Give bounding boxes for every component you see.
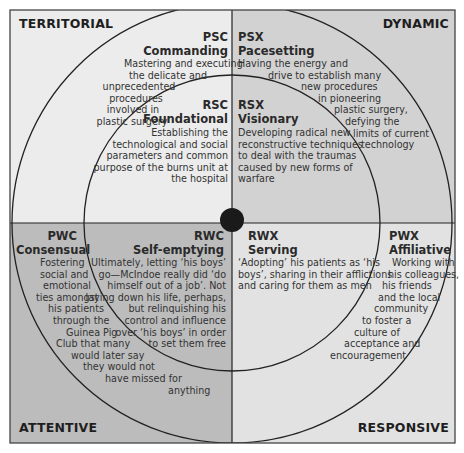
cell-psc-commanding: PSC Commanding [28, 30, 228, 58]
cell-code: RSC [68, 98, 228, 112]
cell-rsx-visionary: RSX Visionary [238, 98, 378, 126]
cell-code: RSX [238, 98, 378, 112]
cell-name: Foundational [68, 112, 228, 126]
cell-name: Visionary [238, 112, 378, 126]
cell-code: PSX [238, 30, 398, 44]
cell-pwx-description: Working with his colleagues, his friends… [330, 257, 460, 361]
cell-name: Serving [248, 243, 368, 257]
cell-rwx-serving: RWX Serving [248, 229, 368, 257]
cell-name: Affiliative [389, 243, 459, 257]
cell-code: RWC [84, 229, 224, 243]
cell-rsc-description: Establishing the technological and socia… [58, 127, 228, 185]
corner-label-dynamic: DYNAMIC [383, 16, 449, 31]
cell-name: Pacesetting [238, 44, 398, 58]
cell-name: Commanding [28, 44, 228, 58]
cell-rwc-description: Ultimately, letting ‘his boys’ go—McIndo… [66, 257, 226, 350]
cell-code: PSC [28, 30, 228, 44]
cell-psx-pacesetting: PSX Pacesetting [238, 30, 398, 58]
cell-name: Self-emptying [84, 243, 224, 257]
cell-rsc-foundational: RSC Foundational [68, 98, 228, 126]
corner-label-responsive: RESPONSIVE [358, 420, 449, 435]
cell-rsx-description: Developing radical new reconstructive te… [238, 127, 388, 185]
cell-code: RWX [248, 229, 368, 243]
cell-code: PWX [389, 229, 459, 243]
corner-label-territorial: TERRITORIAL [19, 16, 113, 31]
cell-pwc-consensual: PWC Consensual [16, 229, 77, 257]
cell-code: PWC [16, 229, 77, 243]
cell-rwc-self-emptying: RWC Self-emptying [84, 229, 224, 257]
cell-name: Consensual [16, 243, 77, 257]
cell-pwx-affiliative: PWX Affiliative [389, 229, 459, 257]
corner-label-attentive: ATTENTIVE [19, 420, 97, 435]
leadership-quadrant-diagram: TERRITORIAL DYNAMIC ATTENTIVE RESPONSIVE… [0, 0, 464, 453]
